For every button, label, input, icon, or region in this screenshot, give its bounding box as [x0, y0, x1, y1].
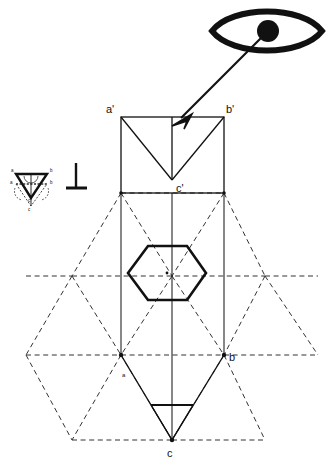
- canvas-background: [0, 0, 335, 468]
- vertex-dot-top-right: [222, 191, 226, 195]
- label-c: c: [167, 447, 173, 459]
- label-b-prime: b': [226, 103, 234, 115]
- vertex-dot-hex-center: [166, 272, 169, 275]
- projection-drawing: a b a b c c: [0, 0, 335, 468]
- label-b: b: [229, 351, 235, 363]
- label-c-prime: c': [176, 182, 184, 194]
- vertex-dot-a: [119, 353, 123, 357]
- vertex-dot-b: [222, 353, 226, 357]
- vertex-dot-top-left: [119, 191, 123, 195]
- drawing-canvas: a b a b c c: [0, 0, 335, 468]
- label-a-prime: a': [106, 103, 114, 115]
- vertex-dot-c: [170, 438, 174, 442]
